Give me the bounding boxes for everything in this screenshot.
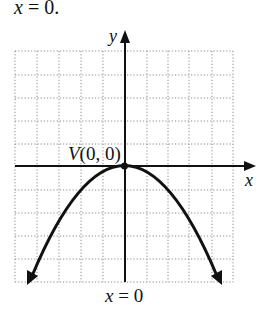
parabola-diagram: x = 0. x y V(0, 0) [0,0,270,315]
vertex-point [121,163,128,170]
axis-of-symmetry-label: x = 0 [104,285,143,306]
y-axis-arrow-icon [120,30,130,43]
y-axis-label: y [107,26,117,46]
caption-top: x = 0. [13,0,59,18]
vertex-label: V(0, 0) [68,143,121,165]
x-axis-label: x [244,170,253,190]
y-axis [120,30,130,282]
